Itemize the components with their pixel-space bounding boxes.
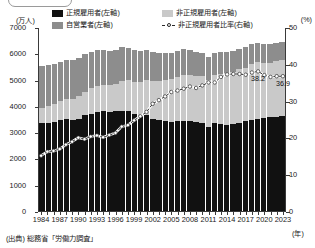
bar-segment-selfemployed	[279, 42, 284, 61]
left-tick-0: 0	[0, 208, 26, 215]
bar-segment-nonregular	[261, 63, 266, 118]
bar-segment-regular	[132, 114, 137, 211]
legend-item-regular: 正規雇用者(左軸)	[52, 7, 162, 19]
bar-segment-regular	[243, 121, 248, 211]
bar-segment-nonregular	[76, 96, 81, 119]
bar-segment-nonregular	[236, 69, 241, 122]
bar-2001	[144, 28, 149, 211]
bar-2002	[150, 28, 155, 211]
left-tickmark-5000	[35, 81, 39, 82]
bar-1989	[70, 28, 75, 211]
top-clipped-tag	[8, 0, 72, 7]
right-tickmark-40	[286, 65, 290, 66]
bar-segment-nonregular	[156, 81, 161, 121]
bar-segment-selfemployed	[138, 51, 143, 82]
bar-segment-selfemployed	[224, 52, 229, 73]
bar-segment-regular	[144, 115, 149, 211]
bar-segment-regular	[52, 122, 57, 211]
bar-segment-selfemployed	[218, 52, 223, 74]
bar-segment-nonregular	[255, 62, 260, 119]
bar-segment-nonregular	[70, 99, 75, 120]
bar-segment-nonregular	[181, 75, 186, 121]
bar-1988	[64, 28, 69, 211]
annotation-36.9: 36.9	[276, 80, 290, 87]
bar-segment-nonregular	[46, 106, 51, 123]
bar-segment-nonregular	[267, 63, 272, 117]
bar-segment-regular	[107, 112, 112, 211]
bar-1991	[82, 28, 87, 211]
bar-segment-regular	[150, 119, 155, 211]
bar-1999	[132, 28, 137, 211]
bar-segment-selfemployed	[101, 50, 106, 85]
bar-segment-regular	[206, 127, 211, 211]
bar-2007	[181, 28, 186, 211]
bar-segment-regular	[58, 120, 63, 211]
bar-segment-selfemployed	[150, 52, 155, 81]
bar-segment-regular	[212, 123, 217, 211]
right-tick-30: 30	[289, 98, 313, 105]
bar-1995	[107, 28, 112, 211]
bar-segment-selfemployed	[243, 47, 248, 67]
bar-segment-regular	[175, 121, 180, 211]
plot-area	[38, 28, 286, 212]
bar-segment-selfemployed	[113, 50, 118, 84]
bar-segment-selfemployed	[212, 53, 217, 75]
bar-segment-selfemployed	[107, 51, 112, 85]
bar-segment-regular	[70, 120, 75, 211]
bar-2021	[267, 28, 272, 211]
bar-segment-regular	[163, 121, 168, 211]
right-tickmark-0	[286, 212, 290, 213]
bar-segment-nonregular	[206, 80, 211, 128]
year-label-1993: 1993	[89, 216, 105, 223]
bar-segment-regular	[46, 123, 51, 211]
bar-segment-selfemployed	[181, 49, 186, 75]
bar-2005	[169, 28, 174, 211]
bar-segment-nonregular	[82, 92, 87, 116]
left-tick-6000: 6000	[0, 50, 26, 57]
bar-1985	[46, 28, 51, 211]
bar-segment-selfemployed	[126, 48, 131, 80]
bar-segment-selfemployed	[261, 44, 266, 63]
annotation-38.2: 38.2	[251, 75, 265, 82]
bar-1984	[39, 28, 44, 211]
year-label-1990: 1990	[70, 216, 86, 223]
bar-segment-nonregular	[249, 64, 254, 120]
bar-2000	[138, 28, 143, 211]
bar-segment-selfemployed	[89, 52, 94, 89]
right-tick-10: 10	[289, 171, 313, 178]
bar-segment-nonregular	[132, 82, 137, 114]
bar-segment-nonregular	[113, 84, 118, 111]
bar-segment-selfemployed	[58, 62, 63, 102]
bar-2009	[193, 28, 198, 211]
bar-segment-selfemployed	[46, 65, 51, 106]
left-tick-4000: 4000	[0, 103, 26, 110]
bar-segment-nonregular	[150, 81, 155, 119]
left-tickmark-3000	[35, 133, 39, 134]
year-label-2002: 2002	[144, 216, 160, 223]
bar-segment-nonregular	[187, 75, 192, 121]
left-tick-3000: 3000	[0, 129, 26, 136]
left-tickmark-4000	[35, 107, 39, 108]
x-axis-year-labels: 1984198719901993199619992002200520082011…	[0, 216, 315, 228]
bar-segment-nonregular	[224, 73, 229, 125]
bar-segment-selfemployed	[169, 53, 174, 80]
bar-segment-regular	[255, 119, 260, 211]
bar-segment-selfemployed	[156, 53, 161, 81]
bar-segment-regular	[181, 121, 186, 211]
bar-1990	[76, 28, 81, 211]
bar-segment-nonregular	[218, 74, 223, 124]
left-tick-2000: 2000	[0, 155, 26, 162]
left-tick-5000: 5000	[0, 77, 26, 84]
left-tickmark-0	[35, 212, 39, 213]
right-tick-40: 40	[289, 61, 313, 68]
bar-segment-regular	[199, 123, 204, 211]
left-tickmark-7000	[35, 28, 39, 29]
bar-segment-regular	[39, 123, 44, 211]
left-tickmark-2000	[35, 159, 39, 160]
bar-1986	[52, 28, 57, 211]
bar-2004	[163, 28, 168, 211]
bar-segment-nonregular	[39, 108, 44, 124]
bar-2017	[243, 28, 248, 211]
bar-segment-nonregular	[64, 99, 69, 119]
bar-segment-regular	[169, 122, 174, 211]
